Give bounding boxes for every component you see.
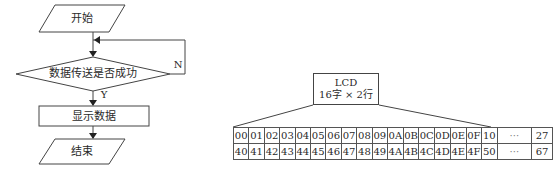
address-cell: 0A bbox=[388, 128, 404, 144]
address-cell: 0E bbox=[450, 128, 466, 144]
address-cell: 27 bbox=[532, 128, 553, 144]
address-cell: 0B bbox=[403, 128, 419, 144]
address-cell: 41 bbox=[249, 144, 264, 160]
address-cell: 40 bbox=[234, 144, 249, 160]
address-cell: 67 bbox=[532, 144, 553, 160]
address-cell: 48 bbox=[357, 144, 372, 160]
address-cell: 02 bbox=[264, 128, 279, 144]
address-cell: 4E bbox=[450, 144, 466, 160]
address-cell: 4F bbox=[466, 144, 482, 160]
ellipsis-cell: ··· bbox=[497, 144, 532, 160]
lcd-box: LCD 16字 × 2行 bbox=[313, 73, 379, 105]
address-cell: 07 bbox=[341, 128, 356, 144]
address-cell: 4C bbox=[419, 144, 435, 160]
address-cell: 09 bbox=[372, 128, 387, 144]
start-label: 开始 bbox=[62, 13, 102, 24]
address-cell: 0F bbox=[466, 128, 482, 144]
arrow-down-icon bbox=[89, 51, 97, 57]
address-cell: 47 bbox=[341, 144, 356, 160]
table-row: 00 01 02 03 04 05 06 07 08 09 0A 0B 0C 0… bbox=[234, 128, 553, 144]
address-cell: 0C bbox=[419, 128, 435, 144]
address-cell: 03 bbox=[280, 128, 295, 144]
address-cell: 49 bbox=[372, 144, 387, 160]
address-cell: 42 bbox=[264, 144, 279, 160]
address-cell: 06 bbox=[326, 128, 341, 144]
lcd-title: LCD bbox=[314, 77, 378, 89]
lcd-address-table: 00 01 02 03 04 05 06 07 08 09 0A 0B 0C 0… bbox=[233, 127, 553, 160]
address-cell: 04 bbox=[295, 128, 310, 144]
address-cell: 08 bbox=[357, 128, 372, 144]
lcd-spec: 16字 × 2行 bbox=[314, 89, 378, 101]
address-cell: 10 bbox=[482, 128, 497, 144]
address-cell: 4A bbox=[388, 144, 404, 160]
address-cell: 4D bbox=[435, 144, 451, 160]
address-cell: 44 bbox=[295, 144, 310, 160]
address-cell: 0D bbox=[435, 128, 451, 144]
address-cell: 05 bbox=[311, 128, 326, 144]
address-cell: 50 bbox=[482, 144, 497, 160]
yes-label: Y bbox=[98, 90, 110, 100]
decision-label: 数据传送是否成功 bbox=[30, 68, 156, 79]
arrow-down-icon bbox=[89, 100, 97, 106]
arrow-left-icon bbox=[94, 36, 100, 44]
address-cell: 43 bbox=[280, 144, 295, 160]
no-label: N bbox=[172, 60, 184, 70]
ellipsis-cell: ··· bbox=[497, 128, 532, 144]
address-cell: 4B bbox=[403, 144, 419, 160]
address-cell: 01 bbox=[249, 128, 264, 144]
table-row: 40 41 42 43 44 45 46 47 48 49 4A 4B 4C 4… bbox=[234, 144, 553, 160]
address-cell: 00 bbox=[234, 128, 249, 144]
end-label: 结束 bbox=[62, 146, 102, 157]
process-label: 显示数据 bbox=[39, 111, 149, 122]
arrow-down-icon bbox=[89, 133, 97, 139]
address-cell: 45 bbox=[311, 144, 326, 160]
address-cell: 46 bbox=[326, 144, 341, 160]
